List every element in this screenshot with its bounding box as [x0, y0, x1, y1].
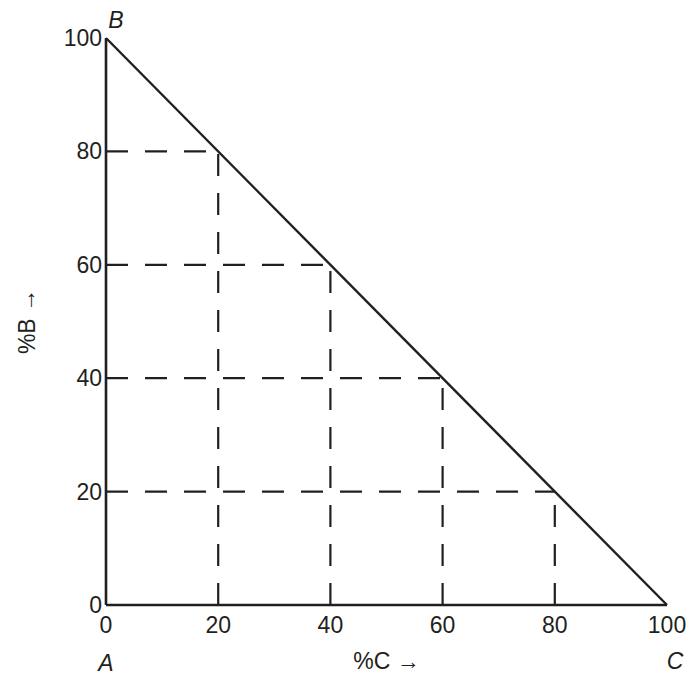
y-tick-label: 100 [64, 25, 102, 51]
y-tick-label: 40 [76, 365, 102, 391]
x-axis-label: %C → [353, 648, 419, 674]
x-tick-labels: 020406080100 [100, 612, 687, 638]
vertex-label-a: A [96, 650, 113, 676]
x-tick-label: 20 [205, 612, 231, 638]
x-tick-label: 60 [430, 612, 456, 638]
x-tick-label: 100 [648, 612, 686, 638]
y-tick-labels: 020406080100 [64, 25, 102, 618]
y-tick-label: 0 [89, 592, 102, 618]
y-tick-label: 20 [76, 479, 102, 505]
b-c-line [106, 38, 667, 605]
y-axis-label: %B → [14, 289, 40, 354]
x-tick-label: 80 [542, 612, 568, 638]
vertex-label-c: C [667, 648, 684, 674]
vertex-label-b: B [108, 7, 123, 33]
dashed-guides [106, 151, 555, 605]
y-tick-label: 60 [76, 252, 102, 278]
y-tick-label: 80 [76, 138, 102, 164]
x-tick-label: 40 [318, 612, 344, 638]
ternary-composition-chart: 020406080100 020406080100 A B C %C → %B … [0, 0, 698, 693]
